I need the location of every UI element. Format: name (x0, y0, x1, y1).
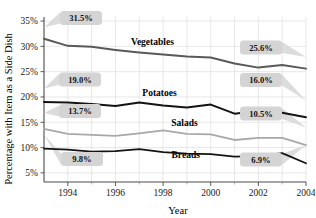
callout-leader-vegetables-end (282, 42, 306, 57)
callout-value: 6.9% (251, 155, 270, 165)
callout-value: 16.0% (249, 75, 273, 85)
x-tick-label: 2004 (297, 188, 316, 198)
series-label-potatoes: Potatoes (142, 88, 177, 98)
y-axis-title: Percentage with Item as a Side Dish (3, 32, 14, 184)
series-label-vegetables: Vegetables (131, 37, 174, 47)
side-dish-trend-chart: 35%30%25%20%15%10%5% 1994199619982000200… (0, 0, 315, 218)
callout-value: 10.5% (249, 109, 273, 119)
callout-vegetables-end: 25.6% (240, 41, 282, 55)
y-tick-label: 10% (21, 143, 39, 153)
series-line-salads (44, 129, 306, 145)
callout-value: 31.5% (69, 13, 93, 23)
chart-canvas: 35%30%25%20%15%10%5% 1994199619982000200… (0, 0, 315, 218)
x-tick-label: 1996 (106, 188, 125, 198)
x-tick-label: 2002 (249, 188, 268, 198)
x-tick-label: 1998 (154, 188, 173, 198)
callout-leader-vegetables-start (44, 13, 60, 28)
y-tick-label: 15% (21, 118, 39, 128)
y-tick-label: 30% (21, 42, 39, 52)
callout-leader-potatoes-start (44, 74, 59, 89)
callout-breads-end: 6.9% (240, 153, 282, 167)
callout-breads-start: 9.8% (61, 152, 103, 166)
x-tick-label: 1994 (58, 188, 77, 198)
x-axis-tick-labels: 199419961998200020022004 (58, 188, 315, 198)
x-tick-label: 2000 (201, 188, 220, 198)
y-tick-label: 5% (25, 168, 38, 178)
data-series-lines (44, 39, 306, 164)
callout-value: 9.8% (72, 154, 91, 164)
series-label-breads: Breads (172, 150, 201, 160)
y-tick-label: 35% (21, 16, 39, 26)
callout-leader-potatoes-end (282, 75, 306, 101)
callout-potatoes-start: 19.0% (59, 73, 101, 87)
callout-leader-salads-start (44, 106, 59, 117)
x-axis-title: Year (168, 205, 188, 216)
callout-salads-start: 13.7% (59, 104, 101, 118)
callout-leader-salads-end (282, 108, 306, 128)
callout-value: 19.0% (68, 75, 92, 85)
y-axis-tick-labels: 35%30%25%20%15%10%5% (21, 16, 39, 178)
series-label-salads: Salads (171, 118, 198, 128)
y-tick-label: 25% (21, 67, 39, 77)
callout-value: 25.6% (249, 43, 273, 53)
callout-value: 13.7% (68, 106, 92, 116)
callout-potatoes-end: 16.0% (240, 73, 282, 87)
y-tick-label: 20% (21, 92, 39, 102)
callout-salads-end: 10.5% (240, 107, 282, 121)
callout-vegetables-start: 31.5% (60, 11, 102, 25)
